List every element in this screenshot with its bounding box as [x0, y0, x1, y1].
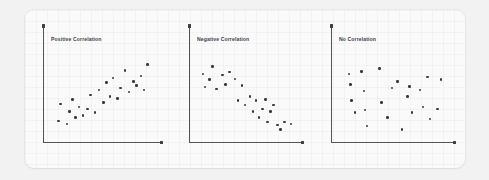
- x-axis-cap-none: [453, 141, 456, 144]
- data-point: [396, 80, 399, 83]
- data-point: [436, 108, 439, 111]
- data-point: [366, 125, 369, 128]
- scatter-panel-positive-correlation: Positive Correlation: [25, 10, 173, 168]
- data-point: [204, 86, 207, 89]
- data-point: [249, 95, 252, 98]
- data-point: [241, 84, 244, 87]
- data-point: [258, 116, 261, 119]
- x-axis-negative: [189, 142, 303, 143]
- data-point: [211, 65, 214, 68]
- data-point: [94, 111, 97, 114]
- y-axis-cap-negative: [188, 24, 191, 27]
- data-point: [86, 108, 89, 111]
- y-axis-negative: [189, 26, 190, 142]
- data-point: [68, 110, 71, 113]
- data-point: [143, 89, 146, 92]
- data-point: [59, 103, 62, 106]
- data-point: [364, 109, 367, 112]
- data-point: [252, 110, 255, 113]
- data-point: [208, 78, 211, 81]
- data-point: [440, 78, 443, 81]
- data-point: [202, 73, 205, 76]
- data-point: [105, 81, 108, 84]
- data-point: [89, 94, 92, 97]
- data-point: [264, 98, 267, 101]
- data-point: [422, 106, 425, 109]
- data-point: [71, 98, 74, 101]
- data-point: [408, 85, 411, 88]
- data-point: [411, 111, 414, 114]
- data-point: [261, 108, 264, 111]
- data-point: [279, 128, 282, 131]
- scatter-panel-no-correlation: No Correlation: [313, 10, 465, 168]
- plot-title-positive: Positive Correlation: [51, 36, 102, 42]
- data-point: [237, 99, 240, 102]
- data-point: [109, 95, 112, 98]
- plot-area-none: No Correlation: [313, 10, 465, 168]
- plot-title-none: No Correlation: [339, 36, 376, 42]
- data-point: [419, 89, 422, 92]
- data-point: [255, 99, 258, 102]
- y-axis-cap-positive: [42, 24, 45, 27]
- data-point: [401, 128, 404, 131]
- data-point: [140, 75, 143, 78]
- scatter-panel-negative-correlation: Negative Correlation: [173, 10, 313, 168]
- data-point: [380, 101, 383, 104]
- x-axis-positive: [43, 142, 162, 143]
- plot-area-positive: Positive Correlation: [25, 10, 173, 168]
- data-point: [128, 91, 131, 94]
- data-point: [244, 104, 247, 107]
- data-point: [290, 123, 293, 126]
- data-point: [224, 83, 227, 86]
- y-axis-cap-none: [330, 24, 333, 27]
- data-point: [221, 74, 224, 77]
- data-point: [272, 104, 275, 107]
- data-point: [98, 89, 101, 92]
- data-point: [391, 87, 394, 90]
- figure-root: Positive Correlation Negative Correlatio…: [0, 0, 489, 180]
- y-axis-positive: [43, 26, 44, 142]
- data-point: [102, 101, 105, 104]
- x-axis-cap-positive: [160, 141, 163, 144]
- data-point: [378, 67, 381, 70]
- x-axis-cap-negative: [301, 141, 304, 144]
- data-point: [429, 118, 432, 121]
- data-point: [124, 69, 127, 72]
- data-point: [350, 99, 353, 102]
- plot-title-negative: Negative Correlation: [197, 36, 249, 42]
- data-point: [82, 114, 85, 117]
- data-point: [146, 63, 149, 66]
- data-point: [78, 106, 81, 109]
- chart-panels: Positive Correlation Negative Correlatio…: [25, 10, 465, 168]
- chart-card: Positive Correlation Negative Correlatio…: [25, 10, 465, 168]
- data-point: [349, 83, 352, 86]
- data-point: [132, 80, 135, 83]
- data-point: [135, 84, 138, 87]
- data-point: [426, 76, 429, 79]
- data-point: [234, 78, 237, 81]
- data-point: [116, 97, 119, 100]
- data-point: [74, 116, 77, 119]
- data-point: [386, 116, 389, 119]
- data-point: [348, 73, 351, 76]
- x-axis-none: [331, 142, 455, 143]
- data-point: [283, 121, 286, 124]
- plot-area-negative: Negative Correlation: [173, 10, 313, 168]
- data-point: [360, 70, 363, 73]
- y-axis-none: [331, 26, 332, 142]
- data-point: [266, 121, 269, 124]
- data-point: [276, 124, 279, 127]
- data-point: [112, 77, 115, 80]
- data-point: [215, 88, 218, 91]
- data-point: [269, 110, 272, 113]
- data-point: [57, 120, 60, 123]
- data-point: [119, 87, 122, 90]
- data-point: [406, 95, 409, 98]
- data-point: [228, 71, 231, 74]
- data-point: [66, 123, 69, 126]
- data-point: [354, 111, 357, 114]
- data-point: [363, 90, 366, 93]
